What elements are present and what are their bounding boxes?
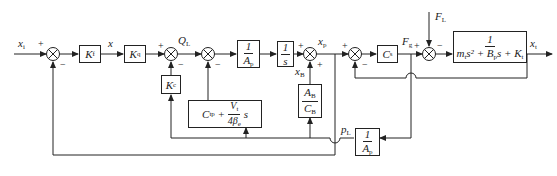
signal-xt: xt <box>530 38 537 51</box>
block-AB-over-CB: ABCB <box>298 84 322 118</box>
signal-xi: xi <box>18 38 25 51</box>
block-1-over-Ap-feedback: 1Ap <box>355 128 380 156</box>
diagram-wires <box>0 0 557 176</box>
signal-xp: xp <box>318 36 326 49</box>
signal-pL: pL <box>341 124 351 137</box>
signal-FL: FL <box>435 11 446 24</box>
block-Kf: Kf <box>79 45 101 63</box>
sign-minus: − <box>437 41 443 51</box>
sign-plus: + <box>298 41 304 51</box>
signal-x: x <box>108 38 113 49</box>
block-plant: 1mts² + Bps + Kt <box>453 31 527 63</box>
sign-plus: + <box>317 60 323 70</box>
signal-Fg: Fg <box>402 36 412 49</box>
sign-plus: + <box>38 39 44 49</box>
signal-xB: xB <box>295 66 305 79</box>
sign-minus: − <box>215 60 221 70</box>
block-leakage: Ctp + Vt4βe s <box>188 100 262 128</box>
sign-minus: − <box>178 60 184 70</box>
signal-QL: QL <box>178 35 190 48</box>
sign-minus: − <box>362 60 368 70</box>
block-1-over-Ap: 1Ap <box>237 40 260 68</box>
block-Cs: Cs <box>377 45 398 63</box>
sign-minus: − <box>60 60 66 70</box>
sign-plus: + <box>158 41 164 51</box>
block-Kq: Kq <box>124 45 146 63</box>
block-Kc: Kc <box>161 75 181 94</box>
block-integrator: 1s <box>277 41 294 67</box>
sign-plus: + <box>414 41 420 51</box>
sign-plus: + <box>342 41 348 51</box>
